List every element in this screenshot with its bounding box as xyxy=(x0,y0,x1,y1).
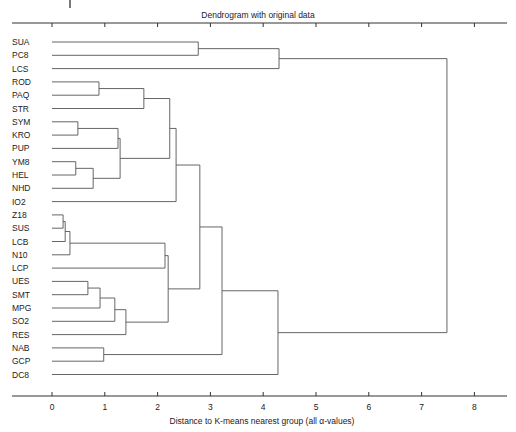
leaf-label: GCP xyxy=(12,356,31,366)
dendrogram-link xyxy=(52,215,63,228)
chart-title: Dendrogram with original data xyxy=(201,10,315,20)
dendrogram-link xyxy=(104,227,222,355)
dendrogram-link xyxy=(52,243,165,268)
dendrogram-link xyxy=(52,82,99,95)
leaf-label: N10 xyxy=(12,250,28,260)
x-tick-label: 7 xyxy=(419,402,424,412)
leaf-label: SUA xyxy=(12,37,30,47)
dendrogram-link xyxy=(52,288,100,308)
leaf-label: YM8 xyxy=(12,157,30,167)
leaf-label: SO2 xyxy=(12,316,29,326)
top-axis xyxy=(12,23,507,27)
leaf-label: MPG xyxy=(12,303,31,313)
x-tick-label: 2 xyxy=(155,402,160,412)
leaf-label: PC8 xyxy=(12,50,29,60)
dendrogram-link xyxy=(52,128,118,148)
dendrogram-link xyxy=(120,99,170,159)
leaf-label: UES xyxy=(12,276,30,286)
dendrogram-link xyxy=(126,256,168,323)
dendrogram-link xyxy=(168,165,200,289)
leaf-label: HEL xyxy=(12,170,29,180)
dendrogram-link xyxy=(52,348,104,361)
leaf-label: SYM xyxy=(12,117,30,127)
x-tick-label: 3 xyxy=(208,402,213,412)
dendrogram-link xyxy=(52,232,70,255)
leaf-label: LCP xyxy=(12,263,29,273)
x-tick-label: 4 xyxy=(261,402,266,412)
leaf-label: RES xyxy=(12,330,30,340)
leaf-label: NAB xyxy=(12,343,30,353)
leaf-label: Z18 xyxy=(12,210,27,220)
dendrogram-chart: Dendrogram with original data 012345678 … xyxy=(0,0,516,432)
x-tick-label: 0 xyxy=(50,402,55,412)
leaf-label: PUP xyxy=(12,143,30,153)
x-tick-label: 1 xyxy=(102,402,107,412)
dendrogram-link xyxy=(52,128,176,201)
leaf-labels: SUAPC8LCSRODPAQSTRSYMKROPUPYM8HELNHDIO2Z… xyxy=(12,37,31,380)
leaf-label: LCB xyxy=(12,237,29,247)
dendrogram-link xyxy=(52,162,76,175)
leaf-label: LCS xyxy=(12,64,29,74)
dendrogram-link xyxy=(52,298,115,321)
leaf-label: STR xyxy=(12,104,29,114)
dendrogram-link xyxy=(278,59,447,333)
x-axis-label: Distance to K-means nearest group (all α… xyxy=(170,416,355,426)
leaf-label: NHD xyxy=(12,183,30,193)
x-tick-label: 5 xyxy=(314,402,319,412)
leaf-label: KRO xyxy=(12,130,31,140)
dendrogram-link xyxy=(52,168,93,188)
dendrogram-link xyxy=(52,49,279,69)
dendrogram-link xyxy=(52,281,88,294)
dendrogram-link xyxy=(52,89,144,109)
dendrogram-link xyxy=(93,138,120,178)
x-axis: 012345678 xyxy=(12,392,507,412)
leaf-label: SUS xyxy=(12,223,30,233)
leaf-label: PAQ xyxy=(12,90,30,100)
dendrogram-links xyxy=(52,42,447,375)
leaf-label: SMT xyxy=(12,290,30,300)
leaf-label: ROD xyxy=(12,77,31,87)
dendrogram-link xyxy=(52,122,78,135)
x-tick-label: 6 xyxy=(366,402,371,412)
dendrogram-link xyxy=(52,42,198,55)
x-tick-label: 8 xyxy=(472,402,477,412)
leaf-label: DC8 xyxy=(12,370,29,380)
dendrogram-link xyxy=(52,291,278,375)
leaf-label: IO2 xyxy=(12,197,26,207)
